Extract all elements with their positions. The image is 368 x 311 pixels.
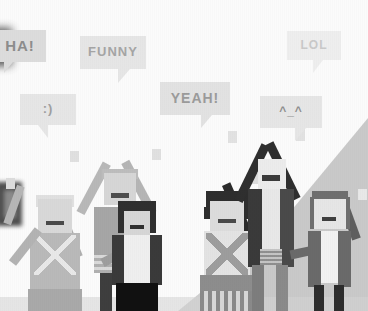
speech-bubble-lol: LOL xyxy=(287,31,341,60)
figure-f-mouth xyxy=(322,217,336,221)
speech-bubble-lol-tail xyxy=(313,60,323,73)
figure-f-leg-right xyxy=(334,285,344,311)
figure-e-head xyxy=(258,159,286,189)
speech-bubble-yeah-text: YEAH! xyxy=(171,90,220,106)
speech-bubble-smiley: :) xyxy=(20,94,76,125)
speech-bubble-kaomoji: ^_^ xyxy=(260,96,322,128)
figure-e-leg-right xyxy=(276,265,288,311)
figure-e-shirt xyxy=(262,189,280,251)
figure-a-head xyxy=(38,199,72,233)
figure-e-belt xyxy=(260,249,282,265)
figure-f-leg-left xyxy=(314,285,324,311)
speech-bubble-yeah: YEAH! xyxy=(160,82,230,115)
speech-bubble-lol-text: LOL xyxy=(301,38,328,52)
speech-bubble-ha-text: HA! xyxy=(5,37,35,54)
speech-bubble-funny-text: FUNNY xyxy=(88,44,138,59)
figure-e-leg-left xyxy=(252,265,264,311)
figure-a-skirt xyxy=(28,289,82,311)
figure-b-hand-left xyxy=(70,151,79,162)
speech-bubble-funny-tail xyxy=(118,69,130,83)
figure-b-hand-right xyxy=(152,149,161,160)
figure-c-pants xyxy=(116,283,158,311)
crowd-illustration: HA! FUNNY LOL :) YEAH! ^_^ xyxy=(0,0,368,311)
speech-bubble-smiley-text: :) xyxy=(43,101,54,116)
figure-e-hand-left xyxy=(228,131,237,143)
figure-dark-jacket xyxy=(104,193,170,311)
speech-bubble-smiley-tail xyxy=(38,125,48,138)
speech-bubble-ha: HA! xyxy=(0,30,46,62)
figure-f-coat-right xyxy=(338,231,351,287)
figure-f-head xyxy=(314,199,346,229)
figure-dark-coat xyxy=(238,141,298,311)
figure-f-hand-right xyxy=(358,189,367,200)
speech-bubble-ha-tail xyxy=(4,62,13,73)
figure-e-mouth xyxy=(262,175,280,181)
figure-d-mouth xyxy=(218,219,236,223)
figure-f-coat-left xyxy=(308,231,321,287)
figure-c-jacket-right xyxy=(150,235,162,285)
figure-f-shirt xyxy=(321,231,338,283)
figure-a-dress-pattern xyxy=(34,235,76,275)
figure-c-jacket-left xyxy=(112,235,124,285)
figure-c-face xyxy=(124,211,150,235)
speech-bubble-yeah-tail xyxy=(201,115,212,128)
figure-c-mouth xyxy=(130,225,144,229)
stray-raised-hand-left xyxy=(6,178,15,189)
speech-bubble-funny: FUNNY xyxy=(80,36,146,69)
figure-c-shirt xyxy=(122,235,152,283)
figure-a-mouth xyxy=(46,221,64,225)
figure-gray-coat-right xyxy=(300,187,364,311)
speech-bubble-kaomoji-text: ^_^ xyxy=(279,104,303,118)
speech-bubble-kaomoji-tail xyxy=(295,128,306,141)
figure-patterned-dress-left xyxy=(22,181,84,311)
